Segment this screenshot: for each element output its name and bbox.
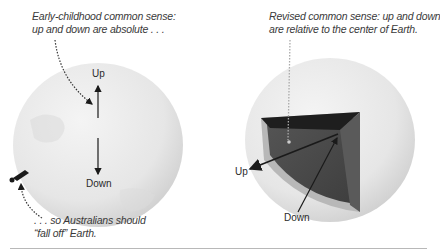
caption-early-childhood-line1: Early-childhood common sense: bbox=[32, 10, 176, 23]
caption-australians-line2: “fall off” Earth. bbox=[34, 227, 97, 240]
label-up-left: Up bbox=[92, 68, 105, 79]
caption-early-childhood-line2: up and down are absolute . . . bbox=[32, 23, 164, 36]
bottom-divider bbox=[10, 248, 427, 249]
label-up-right: Up bbox=[235, 166, 248, 177]
label-down-right: Down bbox=[284, 212, 310, 223]
label-down-left: Down bbox=[86, 178, 112, 189]
caption-revised-line1: Revised common sense: up and down bbox=[269, 10, 440, 23]
caption-revised-line2: are relative to the center of Earth. bbox=[269, 23, 418, 36]
right-globe-cutaway bbox=[245, 58, 415, 222]
caption-australians-line1: . . . so Australians should bbox=[34, 214, 146, 227]
